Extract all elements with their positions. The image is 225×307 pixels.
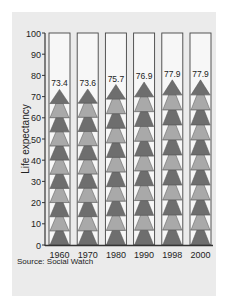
y-tick-label: 70 <box>31 92 41 102</box>
x-tick-label: 2000 <box>190 250 210 260</box>
x-tick-label: 1980 <box>106 250 126 260</box>
x-tick-label: 1990 <box>134 250 154 260</box>
value-label: 73.4 <box>51 78 68 88</box>
y-tick-label: 0 <box>36 241 41 251</box>
y-axis-label: Life expectancy <box>20 104 31 174</box>
y-tick-label: 30 <box>31 177 41 187</box>
source-note: Source: Social Watch <box>17 257 93 266</box>
y-tick-label: 50 <box>31 135 41 145</box>
value-label: 77.9 <box>164 69 181 79</box>
y-tick-label: 100 <box>26 29 41 39</box>
value-label: 73.6 <box>79 78 96 88</box>
y-tick-label: 40 <box>31 156 41 166</box>
y-tick-label: 90 <box>31 50 41 60</box>
value-label: 75.7 <box>108 74 125 84</box>
x-tick-label: 1998 <box>162 250 182 260</box>
y-tick-label: 80 <box>31 71 41 81</box>
value-label: 77.9 <box>192 69 209 79</box>
y-tick-label: 20 <box>31 198 41 208</box>
y-tick-label: 60 <box>31 113 41 123</box>
y-tick-label: 10 <box>31 219 41 229</box>
value-label: 76.9 <box>136 71 153 81</box>
